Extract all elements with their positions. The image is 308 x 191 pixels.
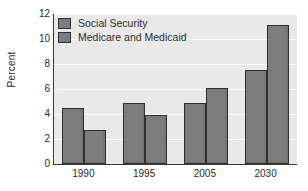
x-axis-tick-label: 1995 xyxy=(133,168,155,179)
legend-item-medicare-and-medicaid: Medicare and Medicaid xyxy=(58,32,187,43)
bar-group xyxy=(184,14,228,164)
bar xyxy=(84,130,106,164)
y-axis-tick-labels: 024681012 xyxy=(22,14,50,164)
y-axis-tick-label: 0 xyxy=(22,159,50,169)
bar-chart-figure: Percent 024681012 1990199520052030 Socia… xyxy=(0,0,308,191)
legend-swatch-icon xyxy=(58,32,71,43)
x-axis-tick-label: 2030 xyxy=(255,168,277,179)
x-axis-tick-label: 1990 xyxy=(72,168,94,179)
legend-swatch-icon xyxy=(58,18,71,29)
bar xyxy=(184,103,206,164)
y-axis-tick-label: 2 xyxy=(22,134,50,144)
y-axis-tick-label: 10 xyxy=(22,34,50,44)
y-axis-tick-label: 8 xyxy=(22,59,50,69)
chart-legend: Social Security Medicare and Medicaid xyxy=(58,18,187,43)
bar xyxy=(123,103,145,164)
y-axis-tick-label: 4 xyxy=(22,109,50,119)
bar xyxy=(206,88,228,164)
x-axis-tick-label: 2005 xyxy=(194,168,216,179)
bar xyxy=(245,70,267,164)
bar xyxy=(267,25,289,164)
bar xyxy=(62,108,84,164)
legend-label: Social Security xyxy=(78,18,147,29)
x-axis-tick-labels: 1990199520052030 xyxy=(53,168,296,184)
legend-item-social-security: Social Security xyxy=(58,18,187,29)
y-axis-tick-label: 12 xyxy=(22,9,50,19)
bar-group xyxy=(245,14,289,164)
y-axis-label: Percent xyxy=(6,35,17,105)
y-axis-tick-label: 6 xyxy=(22,84,50,94)
legend-label: Medicare and Medicaid xyxy=(78,32,187,43)
bar xyxy=(145,115,167,164)
